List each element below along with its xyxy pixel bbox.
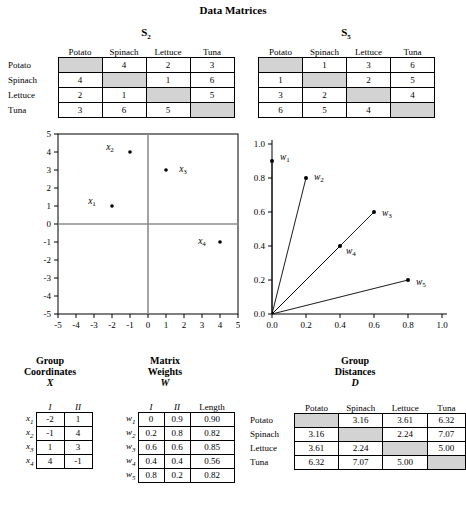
matrix-s5-col-3: Tuna bbox=[391, 44, 435, 58]
table-row: 3 2 4 bbox=[259, 88, 435, 103]
matrix-s5-cell-2-3: 4 bbox=[391, 88, 435, 103]
group-distances-col-2: Lettuce bbox=[383, 400, 427, 413]
x-tick-label: 0.4 bbox=[334, 320, 346, 330]
matrix-s5-cell-1-2: 2 bbox=[347, 73, 391, 88]
y-tick-label: -2 bbox=[44, 255, 52, 265]
matrix-s2-cell-1-3: 6 bbox=[190, 73, 234, 88]
y-tick-label: 0.8 bbox=[254, 173, 266, 183]
x-tick-label: 2 bbox=[182, 320, 187, 330]
vector-w5 bbox=[272, 280, 408, 314]
table-row: Lettuce 3.61 2.24 5.00 bbox=[248, 441, 466, 455]
x-tick-label: 0.2 bbox=[300, 320, 311, 330]
data-point-x4 bbox=[218, 240, 222, 244]
group-distances-title-line3: D bbox=[250, 377, 460, 388]
group-distances-row-label-2: Lettuce bbox=[248, 441, 294, 455]
group-coordinates-cell-2-1: 3 bbox=[64, 440, 92, 454]
y-tick-label: 4 bbox=[47, 147, 52, 157]
matrix-s5-header-row: Potato Spinach Lettuce Tuna bbox=[259, 44, 435, 58]
x-tick-marks bbox=[58, 314, 238, 318]
group-coordinates-cell-0-1: 1 bbox=[64, 412, 92, 426]
y-tick-label: 0.6 bbox=[254, 207, 266, 217]
matrix-s2-cell-1-1 bbox=[102, 73, 146, 88]
group-distances-title-line1: Group bbox=[250, 355, 460, 366]
table-row: w1 0 0.9 0.90 bbox=[114, 412, 234, 426]
matrix-weights-cell-0-0: 0 bbox=[138, 412, 164, 426]
matrix-s2-cell-2-2 bbox=[146, 88, 190, 103]
data-label-x1: x1 bbox=[87, 196, 96, 208]
vector-label-w4: w4 bbox=[346, 246, 356, 258]
matrix-s2-row-label-2: Lettuce bbox=[8, 88, 58, 103]
matrix-s2-cell-0-0 bbox=[58, 58, 102, 73]
table-row: w3 0.6 0.6 0.85 bbox=[114, 440, 234, 454]
group-coordinates-title-line2: Coordinates bbox=[4, 366, 96, 377]
matrix-s2-col-0: Potato bbox=[58, 44, 102, 58]
group-distances-row-label-0: Potato bbox=[248, 413, 294, 427]
group-distances-cell-2-0: 3.61 bbox=[294, 441, 338, 455]
matrix-s2-title: S2 bbox=[56, 26, 236, 41]
matrix-s2-cell-0-3: 3 bbox=[190, 58, 234, 73]
matrix-weights-cell-1-2: 0.82 bbox=[190, 426, 234, 440]
matrix-weights-corner bbox=[114, 399, 138, 412]
matrix-weights-table: I II Length w1 0 0.9 0.90 w2 0.2 0.8 0.8… bbox=[114, 399, 235, 483]
matrix-weights-row-label-1: w2 bbox=[114, 426, 138, 440]
matrix-weights-row-label-0: w1 bbox=[114, 412, 138, 426]
group-coordinates-col-0: I bbox=[36, 399, 64, 412]
group-coordinates-table: I II x1 -2 1 x2 -1 4 x3 1 3 x4 4 -1 bbox=[14, 399, 93, 469]
vector-label-w2: w2 bbox=[314, 172, 324, 184]
matrix-s2-cell-1-0: 4 bbox=[58, 73, 102, 88]
vector-endpoint-w5 bbox=[406, 278, 410, 282]
group-distances-cell-0-1: 3.16 bbox=[338, 413, 383, 427]
group-distances-table: Potato Spinach Lettuce Tuna Potato 3.16 … bbox=[248, 400, 466, 470]
matrix-s5-cell-1-0: 1 bbox=[259, 73, 303, 88]
matrix-s2-row-label-3: Tuna bbox=[8, 103, 58, 118]
matrix-s2-row-label-1: Spinach bbox=[8, 73, 58, 88]
vector-plot-w: 0.0 0.2 0.4 0.6 0.8 1.0 0.0 0.2 0.4 0.6 … bbox=[242, 128, 462, 343]
group-coordinates-cell-0-0: -2 bbox=[36, 412, 64, 426]
table-row: x3 1 3 bbox=[14, 440, 92, 454]
table-row: Potato 3.16 3.61 6.32 bbox=[248, 413, 466, 427]
group-distances-cell-1-3: 7.07 bbox=[427, 427, 465, 441]
y-tick-label: 1.0 bbox=[254, 139, 266, 149]
matrix-weights-row-label-3: w4 bbox=[114, 454, 138, 468]
y-tick-label: 3 bbox=[47, 165, 52, 175]
table-row: Potato 4 2 3 bbox=[8, 58, 234, 73]
vector-label-w1: w1 bbox=[280, 152, 290, 164]
x-tick-label: 0.6 bbox=[368, 320, 380, 330]
matrix-s5-cell-3-1: 5 bbox=[303, 103, 347, 118]
table-row: x1 -2 1 bbox=[14, 412, 92, 426]
table-row: 6 5 4 bbox=[259, 103, 435, 118]
x-tick-label: 3 bbox=[200, 320, 205, 330]
x-tick-label: -3 bbox=[90, 320, 98, 330]
group-distances-header-row: Potato Spinach Lettuce Tuna bbox=[248, 400, 466, 413]
matrix-s2-cell-3-0: 3 bbox=[58, 103, 102, 118]
x-tick-label: -5 bbox=[54, 320, 62, 330]
x-tick-label: 1.0 bbox=[436, 320, 448, 330]
group-distances-cell-3-0: 6.32 bbox=[294, 455, 338, 469]
group-coordinates-cell-1-1: 4 bbox=[64, 426, 92, 440]
group-coordinates-row-label-3: x4 bbox=[14, 454, 36, 468]
table-row: Lettuce 2 1 5 bbox=[8, 88, 234, 103]
matrix-weights-cell-4-0: 0.8 bbox=[138, 468, 164, 482]
vector-w2 bbox=[272, 178, 306, 314]
y-tick-label: -1 bbox=[44, 237, 52, 247]
y-tick-label: 0 bbox=[47, 219, 52, 229]
matrix-weights-col-2: Length bbox=[190, 399, 234, 412]
matrix-s2-cell-1-2: 1 bbox=[146, 73, 190, 88]
matrix-weights-cell-3-2: 0.56 bbox=[190, 454, 234, 468]
matrix-s5-cell-2-0: 3 bbox=[259, 88, 303, 103]
y-tick-label: 0.2 bbox=[254, 275, 265, 285]
x-tick-labels: -5 -4 -3 -2 -1 0 1 2 3 4 5 bbox=[54, 320, 240, 330]
vector-w4 bbox=[272, 246, 340, 314]
matrix-s5-col-0: Potato bbox=[259, 44, 303, 58]
group-coordinates-row-label-0: x1 bbox=[14, 412, 36, 426]
group-coordinates-cell-3-0: 4 bbox=[36, 454, 64, 468]
matrix-weights-cell-3-0: 0.4 bbox=[138, 454, 164, 468]
vector-endpoint-w3 bbox=[372, 210, 376, 214]
matrix-s5-table: Potato Spinach Lettuce Tuna 1 3 6 1 2 5 … bbox=[258, 44, 435, 118]
matrix-weights-title-line1: Matrix bbox=[110, 355, 220, 366]
matrix-weights-row-label-2: w3 bbox=[114, 440, 138, 454]
y-tick-label: 0.4 bbox=[254, 241, 266, 251]
group-distances-cell-3-1: 7.07 bbox=[338, 455, 383, 469]
table-row: Spinach 3.16 2.24 7.07 bbox=[248, 427, 466, 441]
matrix-weights-cell-0-2: 0.90 bbox=[190, 412, 234, 426]
